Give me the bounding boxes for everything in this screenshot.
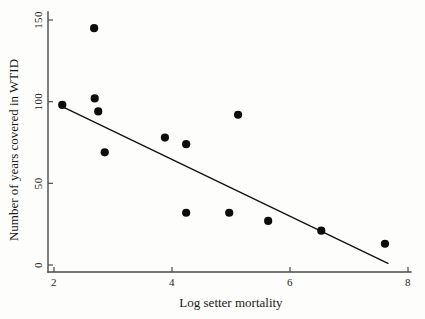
data-point <box>182 140 190 148</box>
y-tick-label: 150 <box>32 11 44 29</box>
data-point <box>91 94 99 102</box>
data-point <box>182 209 190 217</box>
scatter-plot-figure: 2468 050100150 Log setter mortality Numb… <box>0 0 425 319</box>
y-tick-label: 100 <box>32 93 44 111</box>
data-point <box>317 227 325 235</box>
x-tick-label: 8 <box>405 276 411 288</box>
data-points-group <box>58 24 389 248</box>
x-axis-ticks: 2468 <box>51 267 411 288</box>
data-point <box>234 111 242 119</box>
plot-canvas: 2468 050100150 Log setter mortality Numb… <box>0 0 425 319</box>
x-tick-label: 4 <box>169 276 175 288</box>
y-tick-label: 0 <box>32 262 44 268</box>
data-point <box>58 101 66 109</box>
x-axis-title: Log setter mortality <box>179 295 283 310</box>
data-point <box>90 24 98 32</box>
data-point <box>381 240 389 248</box>
data-point <box>225 209 233 217</box>
y-tick-label: 50 <box>32 177 44 189</box>
y-axis-title: Number of years covered in WTID <box>6 59 21 241</box>
data-point <box>264 217 272 225</box>
y-axis-ticks: 050100150 <box>32 11 53 268</box>
regression-line-group <box>62 107 388 264</box>
regression-line <box>62 107 388 264</box>
data-point <box>101 148 109 156</box>
data-point <box>94 107 102 115</box>
x-tick-label: 2 <box>51 276 57 288</box>
axes-group <box>48 12 411 272</box>
x-tick-label: 6 <box>287 276 293 288</box>
data-point <box>161 134 169 142</box>
